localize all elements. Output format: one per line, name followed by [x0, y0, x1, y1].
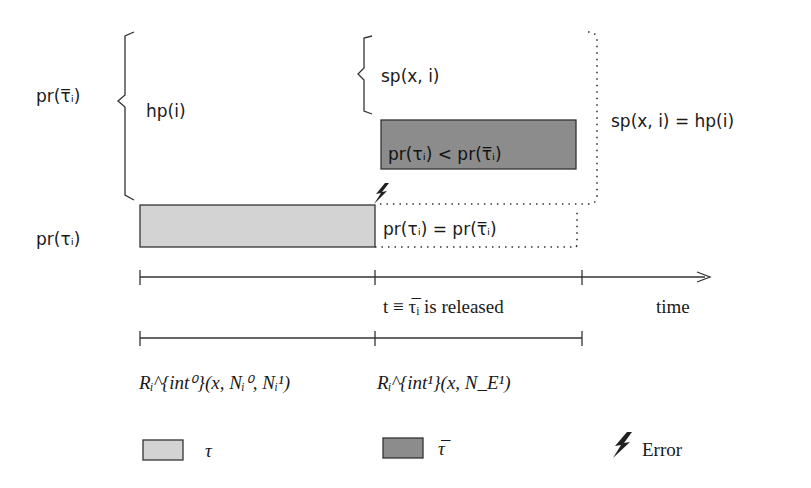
hp-label: hp(i)	[146, 100, 186, 122]
release-label: t ≡ τ̅ᵢ is released	[383, 296, 504, 318]
sp-label: sp(x, i)	[381, 65, 440, 87]
interval-first-label: Rᵢ^{int⁰}(x, Nᵢ⁰, Nᵢ¹)	[139, 372, 290, 394]
error-lightning-icon	[374, 183, 389, 204]
legend-lightning-icon	[613, 432, 632, 458]
hp-brace	[118, 32, 134, 200]
tau-box	[140, 205, 375, 247]
pr-tau-bar-label: pr(τ̅ᵢ)	[36, 85, 80, 107]
tau-dotted-label: pr(τᵢ) = pr(τ̅ᵢ)	[383, 218, 497, 240]
legend-tau-bar-label: τ̅	[438, 438, 445, 460]
equality-label: sp(x, i) = hp(i)	[611, 110, 734, 132]
interval-second-label: Rᵢ^{int¹}(x, N_E¹)	[377, 372, 511, 394]
time-axis-label: time	[656, 296, 690, 318]
legend-tau-label: τ	[205, 440, 212, 462]
hp-dotted-region	[375, 32, 597, 204]
pr-tau-label: pr(τᵢ)	[36, 228, 80, 250]
tau-bar-box-label: pr(τᵢ) < pr(τ̅ᵢ)	[388, 143, 502, 165]
legend-tau-swatch	[143, 440, 183, 460]
legend-tau-bar-swatch	[383, 438, 423, 458]
sp-brace	[358, 36, 372, 114]
legend-error-label: Error	[642, 439, 682, 461]
